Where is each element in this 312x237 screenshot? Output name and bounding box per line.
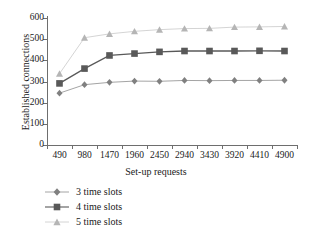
data-point [256, 48, 263, 55]
data-point [181, 48, 188, 55]
data-point [282, 77, 288, 84]
data-point [156, 49, 163, 56]
data-point [157, 78, 163, 85]
data-point [182, 77, 188, 84]
legend-label: 4 time slots [76, 202, 122, 212]
legend-label: 5 time slots [76, 217, 122, 227]
data-point [81, 65, 88, 72]
legend-item: 5 time slots [44, 214, 122, 229]
legend-label: 3 time slots [76, 187, 122, 197]
data-point [131, 50, 138, 57]
data-point [132, 78, 138, 85]
chart-figure: Established connections 0100200300400500… [0, 0, 312, 237]
x-axis-title: Set-up requests [0, 166, 312, 177]
data-point [82, 81, 88, 88]
data-point [207, 77, 213, 84]
legend-item: 4 time slots [44, 199, 122, 214]
data-point [57, 90, 63, 97]
series-line [60, 51, 285, 84]
legend-marker-triangle-icon [44, 216, 70, 228]
data-point [106, 52, 113, 59]
data-point [56, 70, 63, 76]
legend-marker-diamond-icon [44, 186, 70, 198]
series-diamond [57, 77, 288, 97]
data-point [56, 80, 63, 87]
data-point [206, 48, 213, 55]
data-point [257, 77, 263, 84]
series-line [60, 80, 285, 93]
chart-legend: 3 time slots 4 time slots 5 time slots [44, 184, 122, 229]
legend-marker-square-icon [44, 201, 70, 213]
legend-item: 3 time slots [44, 184, 122, 199]
data-point [232, 77, 238, 84]
data-point [281, 48, 288, 55]
data-point [107, 79, 113, 86]
series-line [60, 26, 285, 73]
data-point [231, 48, 238, 55]
series-triangle [56, 23, 288, 77]
